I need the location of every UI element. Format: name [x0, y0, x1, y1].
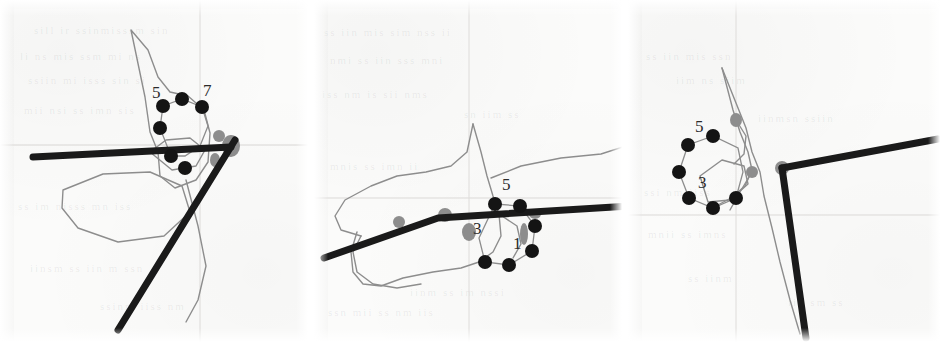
bold-polylines-right: [782, 139, 938, 338]
gray-marker-blob: [213, 130, 225, 142]
grid-lines-left: [0, 0, 308, 342]
node-dot: [672, 165, 686, 179]
node-label: 5: [152, 83, 161, 102]
node-dot: [682, 191, 696, 205]
bold-polyline: [782, 139, 938, 168]
grid-lines-middle: [314, 0, 622, 342]
node-dot: [729, 191, 743, 205]
node-label: 1: [513, 234, 522, 253]
nodes-middle: [478, 197, 542, 272]
node-label: 3: [698, 173, 707, 192]
panel-left: sill ir ssinmisssm sin li ns mis ssm mi …: [0, 0, 308, 342]
panel-right-graphic: 53: [628, 0, 940, 342]
nodes-left: [153, 92, 209, 175]
panel-right: ss iin mis ssn iim ns siim iinmsn ssiin …: [628, 0, 940, 342]
node-dot: [488, 197, 502, 211]
node-dot: [706, 201, 720, 215]
gray-marker-blob: [393, 216, 405, 228]
bold-polyline: [118, 140, 235, 330]
gray-outline-path: [62, 172, 190, 242]
node-label: 5: [502, 175, 511, 194]
gray-outline-path: [491, 138, 622, 178]
node-label: 5: [695, 117, 704, 136]
gray-marker-blob: [730, 113, 742, 127]
gray-marker-blob: [746, 166, 758, 178]
node-dot: [164, 149, 178, 163]
node-dot: [525, 244, 539, 258]
bold-polylines-left: [33, 140, 235, 330]
node-dot: [478, 255, 492, 269]
node-dot: [502, 258, 516, 272]
panel-middle-graphic: 531: [314, 0, 622, 342]
panel-middle: ss iin mis sim nss ii nmi ss iin sss mni…: [314, 0, 622, 342]
node-dot: [195, 100, 209, 114]
node-dot: [153, 121, 167, 135]
node-dot: [178, 161, 192, 175]
node-dot: [706, 129, 720, 143]
node-label: 3: [473, 219, 482, 238]
gray-outlines-left: [62, 30, 210, 322]
node-dot: [513, 199, 527, 213]
node-label: 7: [203, 81, 212, 100]
node-dot: [528, 219, 542, 233]
node-labels-right: 53: [695, 117, 707, 192]
panel-left-graphic: 57: [0, 0, 308, 342]
node-dot: [175, 92, 189, 106]
node-dot: [681, 138, 695, 152]
figure-triptych: sill ir ssinmisssm sin li ns mis ssm mi …: [0, 0, 940, 342]
